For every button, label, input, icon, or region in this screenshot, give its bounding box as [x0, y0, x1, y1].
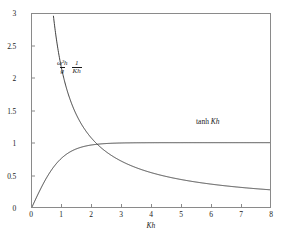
x-tick-label: 5	[179, 210, 183, 219]
y-tick-label: 0.5	[7, 171, 16, 180]
curve-omega-squared-h-over-g	[53, 16, 270, 190]
fraction-denominator: Kh	[72, 67, 82, 75]
tanh-argument: Kh	[211, 117, 220, 126]
fraction-numerator: ω²h	[56, 60, 69, 67]
curve-tanh-kh	[32, 143, 270, 207]
tanh-function-name: tanh	[196, 117, 209, 126]
x-tick-label: 0	[29, 210, 33, 219]
x-tick-label: 3	[119, 210, 123, 219]
x-tick-label: 7	[239, 210, 243, 219]
figure: 3 2.5 2 1.5 1 0.5 0 0 1 2 3 4 5 6 7 8 ω²…	[0, 0, 289, 247]
y-tick-label: 0	[12, 204, 16, 213]
annotation-fraction: ω²h g 1 Kh	[56, 60, 82, 76]
plot-area	[31, 13, 271, 208]
curve-layer	[32, 14, 270, 207]
y-tick-label: 2	[12, 74, 16, 83]
x-tick-label: 4	[149, 210, 153, 219]
annotation-tanh: tanh Kh	[196, 117, 220, 126]
fraction-denominator: g	[60, 67, 66, 75]
y-tick-label: 3	[12, 9, 16, 18]
x-tick-label: 2	[89, 210, 93, 219]
y-tick-label: 1	[12, 139, 16, 148]
x-axis-label: Kh	[147, 221, 156, 230]
x-tick-label: 6	[209, 210, 213, 219]
x-tick-label: 8	[269, 210, 273, 219]
y-tick-label: 1.5	[7, 106, 16, 115]
fraction-numerator: 1	[74, 60, 80, 67]
x-tick-label: 1	[59, 210, 63, 219]
fraction-one-over-kh: 1 Kh	[72, 60, 82, 76]
y-tick-label: 2.5	[7, 41, 16, 50]
fraction-omega-squared-h-over-g: ω²h g	[56, 60, 69, 76]
